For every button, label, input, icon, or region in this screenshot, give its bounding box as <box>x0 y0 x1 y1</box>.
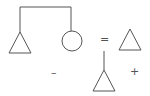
left-triangle <box>9 32 31 53</box>
right-triangle <box>119 29 141 50</box>
bottom-triangle <box>93 70 115 91</box>
equals-sign: = <box>100 34 109 45</box>
minus-sign: – <box>51 67 57 78</box>
diagram-canvas <box>0 0 150 96</box>
connector-bracket <box>20 7 71 32</box>
plus-sign: + <box>130 66 139 77</box>
circle-shape <box>62 31 82 51</box>
